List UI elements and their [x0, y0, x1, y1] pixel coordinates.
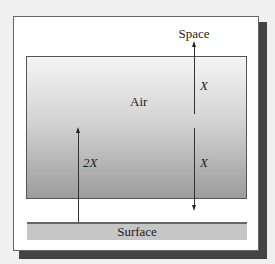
- air-layer: [26, 56, 247, 199]
- arrow-up-icon: [192, 41, 196, 47]
- space-label: Space: [178, 27, 209, 40]
- surface-flux-label: 2X: [83, 156, 97, 169]
- surface-label: Surface: [117, 225, 157, 238]
- arrow-up-icon: [76, 127, 80, 133]
- arrow-air-to-surface-shaft: [194, 128, 195, 206]
- arrow-air-to-space-shaft: [194, 44, 195, 114]
- arrow-down-icon: [192, 205, 196, 211]
- air-label: Air: [130, 95, 147, 108]
- arrow-surface-to-air-shaft: [78, 131, 79, 223]
- upper-flux-label: X: [200, 79, 208, 92]
- lower-flux-label: X: [200, 156, 208, 169]
